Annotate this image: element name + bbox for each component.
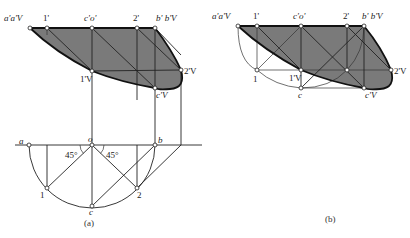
figure-b: a'a'V 1' c'o' 2' b' b'V 1 1'V c 2'V c'V … bbox=[212, 11, 407, 224]
label-2-prime: 2' bbox=[133, 13, 140, 23]
label-angle-left: 45° bbox=[65, 150, 78, 160]
diagram-canvas: a'a'V 1' c'o' 2' b' b'V 1'V 2'V c'V a o bbox=[0, 0, 410, 238]
point-a-prime bbox=[28, 26, 32, 30]
label-a-prime-b: a'a'V bbox=[212, 11, 232, 21]
label-1v: 1'V bbox=[80, 74, 93, 84]
label-b-prime: b' b'V bbox=[156, 13, 178, 23]
label-angle-right: 45° bbox=[106, 150, 119, 160]
label-a-prime: a'a'V bbox=[4, 13, 24, 23]
point-1 bbox=[45, 186, 49, 190]
projection-diagram: a'a'V 1' c'o' 2' b' b'V 1'V 2'V c'V a o bbox=[0, 0, 410, 238]
point-c-prime-b bbox=[299, 24, 303, 28]
label-2v-b: 2'V bbox=[394, 66, 407, 76]
point-b-prime-b bbox=[362, 24, 366, 28]
shaded-surface-a bbox=[30, 28, 182, 89]
label-c: c bbox=[89, 207, 93, 217]
point-2-prime-b bbox=[345, 24, 349, 28]
point-c-prime bbox=[90, 26, 94, 30]
point-2v bbox=[179, 68, 183, 72]
angle-arc-right bbox=[101, 145, 105, 154]
point-a bbox=[27, 143, 31, 147]
label-1v-b: 1'V bbox=[289, 73, 302, 83]
point-1-b bbox=[255, 68, 259, 72]
point-1v-b bbox=[299, 68, 303, 72]
caption-b: (b) bbox=[325, 214, 336, 224]
label-a: a bbox=[19, 136, 24, 146]
label-cv-b: c'V bbox=[365, 90, 378, 100]
label-2-prime-b: 2' bbox=[343, 11, 350, 21]
point-a-prime-b bbox=[236, 24, 240, 28]
label-1-prime: 1' bbox=[43, 13, 50, 23]
shaded-surface-b bbox=[238, 26, 392, 89]
caption-a: (a) bbox=[84, 218, 94, 228]
label-b: b bbox=[158, 135, 163, 145]
plan-2v-2 bbox=[137, 145, 181, 188]
point-1v bbox=[90, 69, 94, 73]
angle-arc-left bbox=[80, 145, 84, 154]
label-1-b: 1 bbox=[253, 74, 258, 84]
figure-a: a'a'V 1' c'o' 2' b' b'V 1'V 2'V c'V a o bbox=[4, 13, 202, 228]
label-c-prime: c'o' bbox=[84, 13, 97, 23]
point-2-b bbox=[345, 68, 349, 72]
label-cv: c'V bbox=[156, 90, 169, 100]
label-1-prime-b: 1' bbox=[253, 11, 260, 21]
point-b bbox=[153, 143, 157, 147]
label-2v: 2'V bbox=[184, 66, 197, 76]
point-1-prime bbox=[45, 26, 49, 30]
point-2-prime bbox=[135, 26, 139, 30]
label-b-prime-b: b' b'V bbox=[362, 11, 384, 21]
label-2: 2 bbox=[137, 190, 142, 200]
label-o: o bbox=[88, 134, 93, 144]
label-c-b: c bbox=[298, 90, 302, 100]
point-b-prime bbox=[153, 26, 157, 30]
point-2v-b bbox=[389, 68, 393, 72]
label-1: 1 bbox=[40, 190, 45, 200]
point-1-prime-b bbox=[255, 24, 259, 28]
label-c-prime-b: c'o' bbox=[293, 11, 306, 21]
